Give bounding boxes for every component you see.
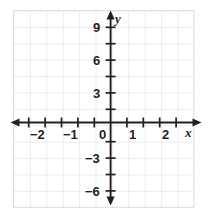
y-tick-label-3: 3 xyxy=(93,87,100,100)
x-tick-label-2: 2 xyxy=(162,128,169,141)
y-tick-label-6: 6 xyxy=(93,54,100,67)
y-axis-name-label: y xyxy=(115,12,121,25)
coordinate-grid-svg xyxy=(0,0,213,215)
x-tick-label-neg2: −2 xyxy=(30,128,44,141)
y-tick-label-neg6: −6 xyxy=(85,185,99,198)
x-tick-label-neg1: −1 xyxy=(63,128,77,141)
x-tick-label-1: 1 xyxy=(129,128,136,141)
grid-lines xyxy=(14,11,194,208)
y-tick-label-9: 9 xyxy=(93,21,100,34)
origin-label: 0 xyxy=(99,128,106,141)
y-tick-label-neg3: −3 xyxy=(85,152,99,165)
x-axis-name-label: x xyxy=(185,126,192,139)
coordinate-plane-figure: −2 −1 0 1 2 9 6 3 −3 −6 y x xyxy=(0,0,213,215)
